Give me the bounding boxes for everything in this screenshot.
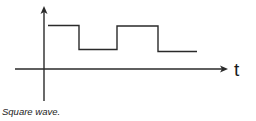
x-axis [15,66,228,73]
x-axis-label: t [234,59,240,80]
y-axis [41,6,48,101]
figure-caption: Square wave. [2,106,60,117]
square-wave-diagram: t [0,0,256,121]
square-wave-trace [48,26,197,52]
